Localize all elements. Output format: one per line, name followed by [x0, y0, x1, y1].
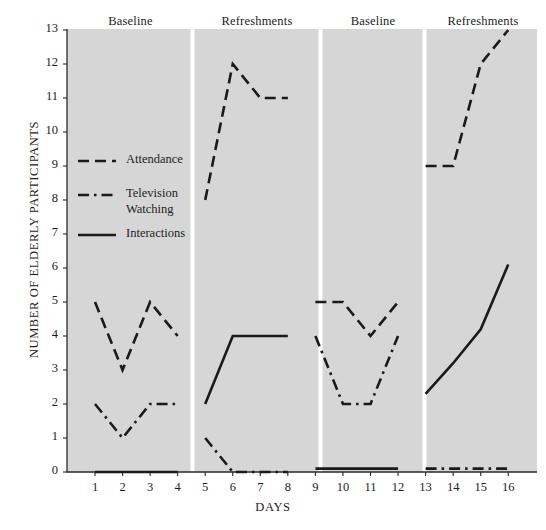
legend-item-television-watching: TelevisionWatching	[126, 186, 178, 218]
legend-item-attendance: Attendance	[126, 152, 183, 167]
plot-panel-3	[323, 29, 423, 472]
plot-panel-1	[67, 29, 191, 472]
legend-label-line: Television	[126, 186, 178, 201]
plot-area	[0, 0, 546, 530]
chart-container: Baseline Refreshments Baseline Refreshme…	[0, 0, 546, 530]
legend-item-interactions: Interactions	[126, 226, 185, 241]
plot-panel-2	[195, 29, 319, 472]
legend-label-line: Watching	[126, 201, 178, 218]
plot-panel-4	[427, 29, 538, 472]
